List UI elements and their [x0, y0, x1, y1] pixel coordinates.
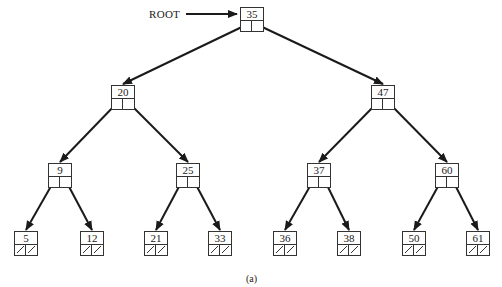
edge-25-to-33: [194, 181, 220, 230]
node-pointers: [241, 20, 263, 31]
null-pointer-slash-icon: [220, 244, 231, 255]
tree-node-12: 12: [80, 231, 104, 256]
null-pointer-slash-icon: [338, 244, 349, 255]
null-pointer-slash-icon: [478, 244, 489, 255]
edge-47-to-37: [319, 103, 377, 162]
tree-node-38: 38: [337, 231, 361, 256]
left-pointer-cell: [81, 244, 92, 255]
right-pointer-cell: [285, 244, 296, 255]
left-pointer-cell: [338, 244, 349, 255]
node-pointers: [372, 98, 394, 109]
right-pointer-cell: [349, 244, 360, 255]
node-pointers: [81, 244, 103, 255]
right-pointer-cell: [252, 20, 263, 31]
right-pointer-cell: [319, 176, 330, 187]
tree-node-9: 9: [48, 163, 72, 188]
left-pointer-cell: [467, 244, 478, 255]
node-pointers: [338, 244, 360, 255]
tree-node-20: 20: [111, 85, 135, 110]
left-pointer-cell: [15, 244, 26, 255]
edge-20-to-9: [60, 103, 117, 162]
tree-node-37: 37: [307, 163, 331, 188]
null-pointer-slash-icon: [467, 244, 478, 255]
edge-20-to-25: [129, 103, 188, 162]
tree-node-25: 25: [176, 163, 200, 188]
null-pointer-slash-icon: [274, 244, 285, 255]
node-pointers: [145, 244, 167, 255]
null-pointer-slash-icon: [156, 244, 167, 255]
edge-37-to-36: [285, 181, 313, 230]
right-pointer-cell: [26, 244, 37, 255]
right-pointer-cell: [123, 98, 134, 109]
tree-node-35: 35: [240, 7, 264, 32]
left-pointer-cell: [177, 176, 188, 187]
tree-node-60: 60: [435, 163, 459, 188]
left-pointer-cell: [372, 98, 383, 109]
left-pointer-cell: [436, 176, 447, 187]
null-pointer-slash-icon: [209, 244, 220, 255]
right-pointer-cell: [60, 176, 71, 187]
tree-node-61: 61: [466, 231, 490, 256]
node-pointers: [467, 244, 489, 255]
null-pointer-slash-icon: [81, 244, 92, 255]
left-pointer-cell: [308, 176, 319, 187]
null-pointer-slash-icon: [15, 244, 26, 255]
null-pointer-slash-icon: [26, 244, 37, 255]
right-pointer-cell: [156, 244, 167, 255]
null-pointer-slash-icon: [92, 244, 103, 255]
right-pointer-cell: [220, 244, 231, 255]
null-pointer-slash-icon: [414, 244, 425, 255]
edge-9-to-12: [66, 181, 92, 230]
left-pointer-cell: [403, 244, 414, 255]
null-pointer-slash-icon: [403, 244, 414, 255]
node-pointers: [308, 176, 330, 187]
tree-node-36: 36: [273, 231, 297, 256]
tree-node-47: 47: [371, 85, 395, 110]
edge-9-to-5: [26, 181, 54, 230]
node-pointers: [49, 176, 71, 187]
left-pointer-cell: [241, 20, 252, 31]
edge-25-to-21: [156, 181, 182, 230]
figure-caption: (a): [246, 273, 257, 284]
right-pointer-cell: [383, 98, 394, 109]
node-pointers: [274, 244, 296, 255]
node-pointers: [177, 176, 199, 187]
left-pointer-cell: [274, 244, 285, 255]
node-pointers: [436, 176, 458, 187]
node-pointers: [403, 244, 425, 255]
edge-60-to-50: [414, 181, 441, 230]
tree-edges: [0, 0, 502, 287]
tree-node-21: 21: [144, 231, 168, 256]
tree-node-50: 50: [402, 231, 426, 256]
tree-node-33: 33: [208, 231, 232, 256]
edge-60-to-61: [453, 181, 478, 230]
edge-35-to-20: [123, 25, 246, 84]
right-pointer-cell: [447, 176, 458, 187]
left-pointer-cell: [209, 244, 220, 255]
root-label: ROOT: [149, 8, 180, 20]
left-pointer-cell: [112, 98, 123, 109]
left-pointer-cell: [145, 244, 156, 255]
node-pointers: [112, 98, 134, 109]
null-pointer-slash-icon: [145, 244, 156, 255]
left-pointer-cell: [49, 176, 60, 187]
node-pointers: [209, 244, 231, 255]
node-pointers: [15, 244, 37, 255]
edge-35-to-47: [258, 25, 383, 84]
right-pointer-cell: [478, 244, 489, 255]
right-pointer-cell: [92, 244, 103, 255]
edge-37-to-38: [325, 181, 349, 230]
right-pointer-cell: [188, 176, 199, 187]
edge-47-to-60: [389, 103, 447, 162]
right-pointer-cell: [414, 244, 425, 255]
null-pointer-slash-icon: [349, 244, 360, 255]
tree-node-5: 5: [14, 231, 38, 256]
bst-diagram: ROOT 3520479253760512213336385061 (a): [0, 0, 502, 287]
null-pointer-slash-icon: [285, 244, 296, 255]
